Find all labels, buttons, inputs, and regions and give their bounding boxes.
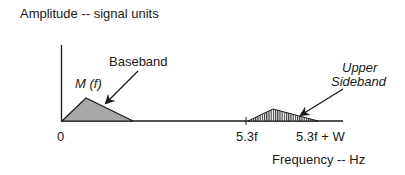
x-axis-label: Frequency -- Hz: [272, 152, 365, 167]
upper-sideband-label-line2: Sideband: [331, 74, 386, 89]
upper-sideband-label-line1: Upper: [342, 60, 377, 75]
y-axis-label: Amplitude -- signal units: [20, 6, 159, 21]
baseband-function-label: M (f): [75, 76, 102, 91]
baseband-label: Baseband: [109, 54, 168, 69]
baseband-spectrum: [62, 98, 133, 121]
baseband-arrow: [106, 71, 138, 103]
upper-sideband-arrow: [301, 89, 343, 115]
tick-label-carrier-plus-w: 5.3f + W: [296, 129, 345, 144]
tick-label-carrier: 5.3f: [236, 129, 258, 144]
tick-label-origin: 0: [57, 129, 64, 144]
